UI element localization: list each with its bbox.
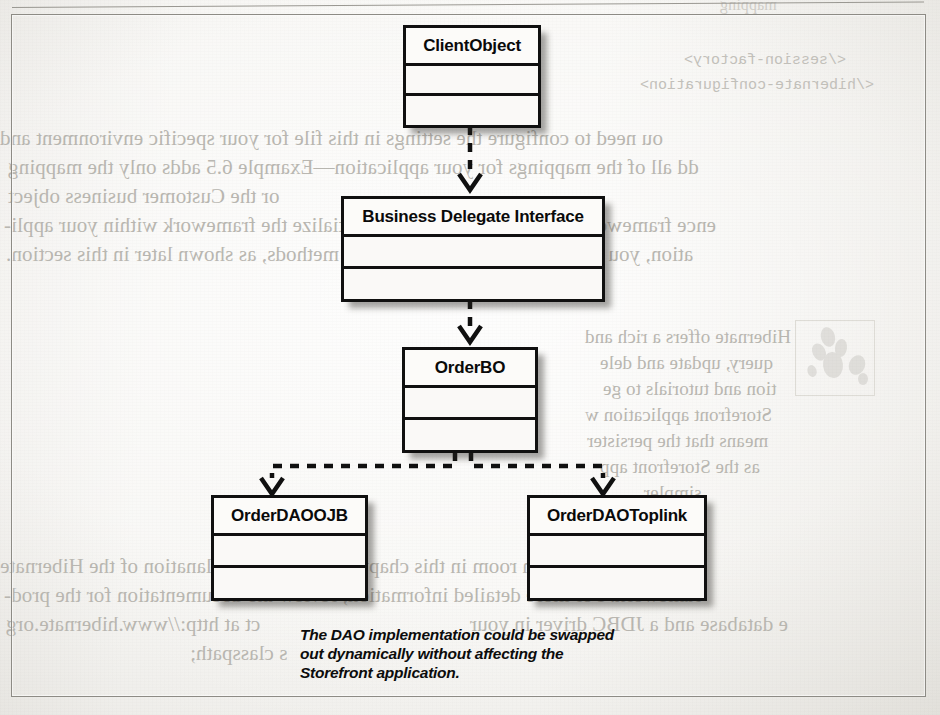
connector-clientobject-to-delegate xyxy=(455,126,485,198)
scanned-page: mapping </session-factory> </hibernate-c… xyxy=(0,0,940,715)
uml-attributes-compartment xyxy=(530,536,704,568)
uml-class-client-object[interactable]: ClientObject xyxy=(403,25,541,128)
diagram-caption: The DAO implementation could be swapped … xyxy=(300,625,650,682)
oreilly-animal-icon xyxy=(795,320,875,396)
bleed-paragraph-2-line-3: tion and tutorials to ge xyxy=(603,374,776,404)
uml-operations-compartment xyxy=(405,420,535,450)
uml-operations-compartment xyxy=(406,96,538,125)
bleed-paragraph-2-line-6: as the Storefront app xyxy=(600,452,760,482)
bleed-code-line-1: </session-factory> xyxy=(684,48,846,73)
bleed-paragraph-1-line-3: or the Customer business object xyxy=(8,182,279,212)
uml-class-name-business-delegate-interface: Business Delegate Interface xyxy=(344,199,602,237)
uml-class-order-dao-ojb[interactable]: OrderDAOOJB xyxy=(211,495,368,601)
bleed-paragraph-3-line-3: ct at http://www.hibernate.org xyxy=(6,610,260,640)
page-top-rule xyxy=(12,1,924,8)
uml-attributes-compartment xyxy=(214,536,365,568)
connector-delegate-to-orderbo xyxy=(455,300,485,350)
uml-operations-compartment xyxy=(530,568,704,598)
uml-operations-compartment xyxy=(344,269,602,299)
uml-class-name-order-dao-toplink: OrderDAOToplink xyxy=(530,498,704,536)
uml-class-name-order-dao-ojb: OrderDAOOJB xyxy=(214,498,365,536)
uml-class-order-bo[interactable]: OrderBO xyxy=(402,347,538,453)
uml-attributes-compartment xyxy=(405,388,535,420)
bleed-paragraph-2-line-1: Hibernate offers a rich and xyxy=(585,322,791,352)
uml-attributes-compartment xyxy=(406,66,538,96)
bleed-code-line-2: </hibernate-configuration> xyxy=(640,73,874,98)
bleed-paragraph-1-line-1: ou need to configure the settings in thi… xyxy=(0,124,663,154)
uml-class-name-order-bo: OrderBO xyxy=(405,350,535,388)
uml-class-business-delegate-interface[interactable]: Business Delegate Interface xyxy=(341,196,605,302)
bleed-paragraph-2-line-5: means that the persister xyxy=(587,426,768,456)
uml-class-order-dao-toplink[interactable]: OrderDAOToplink xyxy=(527,495,707,601)
bleed-fragment-top: mapping xyxy=(720,0,777,20)
bleed-paragraph-1-line-2: dd all of the mappings for your applicat… xyxy=(8,153,699,183)
uml-class-name-client-object: ClientObject xyxy=(406,28,538,66)
bleed-paragraph-2-line-2: query, update and dele xyxy=(600,348,773,378)
uml-attributes-compartment xyxy=(344,237,602,269)
uml-operations-compartment xyxy=(214,568,365,598)
bleed-paragraph-3-line-5: s classpath; xyxy=(190,639,287,669)
bleed-paragraph-2-line-4: Storefront application w xyxy=(585,400,772,430)
